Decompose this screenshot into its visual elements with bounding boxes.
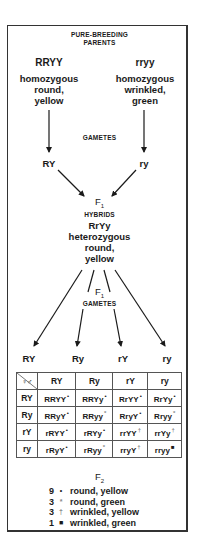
punnett-header-row: ♀♂ RY Ry rY ry	[17, 373, 182, 390]
legend-symbol-square-icon: ■	[54, 518, 68, 529]
punnett-cell: RRyy*	[76, 407, 113, 424]
punnett-cell: rrYy†	[148, 424, 182, 441]
arrow-f1-to-gamete2	[77, 309, 83, 346]
cell-marker: •	[173, 393, 175, 399]
arrow-f1-to-gamete1	[34, 270, 82, 346]
cell-marker: •	[103, 427, 105, 433]
legend-text: wrinkled, yellow	[70, 507, 139, 518]
col-header: Ry	[76, 373, 113, 390]
legend-count: 9	[44, 486, 54, 497]
col-header: ry	[148, 373, 182, 390]
arrow-f1-to-gamete3	[114, 309, 121, 346]
legend-count: 1	[44, 518, 54, 529]
col-header: rY	[113, 373, 148, 390]
cell-genotype: rrYy	[155, 428, 171, 437]
cell-marker: *	[103, 444, 105, 450]
arrow-gamete2-to-f1	[112, 170, 136, 196]
legend-row: 1 ■ wrinkled, green	[44, 518, 139, 529]
legend-count: 3	[44, 497, 54, 508]
cell-genotype: RrYY	[119, 394, 139, 403]
punnett-cell: rRyY•	[38, 441, 76, 458]
punnett-cell: Rryy*	[148, 407, 182, 424]
f2-legend: 9 • round, yellow 3 * round, green 3 † w…	[44, 486, 139, 528]
legend-text: round, green	[70, 497, 125, 508]
row-header: rY	[17, 424, 38, 441]
cell-marker: *	[104, 410, 106, 416]
cell-marker: †	[137, 444, 140, 450]
female-male-symbols: ♀♂	[22, 378, 33, 385]
row-header: RY	[17, 390, 38, 407]
cell-genotype: RryY	[120, 411, 139, 420]
legend-text: wrinkled, green	[70, 518, 136, 529]
row-header: ry	[17, 441, 38, 458]
cell-marker: •	[140, 393, 142, 399]
cell-genotype: RRYy	[82, 394, 103, 403]
cell-genotype: rryY	[120, 445, 136, 454]
punnett-cell: rRYy•	[76, 424, 113, 441]
cell-genotype: rryy	[155, 445, 170, 454]
punnett-cell: rRyy*	[76, 441, 113, 458]
punnett-cell: RryY•	[113, 407, 148, 424]
row-header: Ry	[17, 407, 38, 424]
legend-row: 3 * round, green	[44, 497, 139, 508]
cell-marker: •	[66, 427, 68, 433]
cell-marker: †	[138, 427, 141, 433]
punnett-row: RY RRYY• RRYy• RrYY• RrYy•	[17, 390, 182, 407]
cell-marker: •	[67, 393, 69, 399]
legend-count: 3	[44, 507, 54, 518]
legend-row: 3 † wrinkled, yellow	[44, 507, 139, 518]
cell-marker: •	[67, 410, 69, 416]
legend-text: round, yellow	[70, 486, 128, 497]
cell-genotype: RRyy	[83, 411, 103, 420]
punnett-cell: rRYY•	[38, 424, 76, 441]
cell-genotype: rrYY	[120, 428, 137, 437]
cell-marker: •	[65, 444, 67, 450]
punnett-square: ♀♂ RY Ry rY ry RY RRYY• RRYy• RrYY• RrYy…	[16, 372, 182, 458]
cell-genotype: RrYy	[154, 394, 173, 403]
punnett-cell: RRYy•	[76, 390, 113, 407]
arrow-f1-to-gamete3-upper	[104, 270, 110, 292]
f2-label-sub: 2	[101, 478, 104, 484]
punnett-cell: RRyY•	[38, 407, 76, 424]
cell-marker: †	[172, 427, 175, 433]
f2-label: F2	[0, 471, 199, 484]
legend-symbol-dot-icon: •	[54, 486, 68, 497]
cell-genotype: rRyy	[84, 445, 102, 454]
punnett-corner: ♀♂	[17, 373, 38, 390]
cell-marker: *	[173, 410, 175, 416]
cell-genotype: RRYY	[44, 394, 66, 403]
arrow-f1-to-gamete4	[115, 270, 165, 346]
cell-genotype: rRYY	[46, 428, 65, 437]
cell-genotype: Rryy	[154, 411, 172, 420]
cell-genotype: RRyY	[44, 411, 65, 420]
punnett-cell: RrYy•	[148, 390, 182, 407]
punnett-row: ry rRyY• rRyy* rryY† rryy■	[17, 441, 182, 458]
cell-marker: •	[139, 410, 141, 416]
cell-genotype: rRYy	[84, 428, 102, 437]
cell-marker: ■	[171, 444, 175, 450]
legend-symbol-asterisk-icon: *	[54, 497, 68, 508]
cell-marker: •	[104, 393, 106, 399]
punnett-row: rY rRYY• rRYy• rrYY† rrYy†	[17, 424, 182, 441]
legend-symbol-dagger-icon: †	[54, 507, 68, 518]
punnett-cell: rrYY†	[113, 424, 148, 441]
arrow-gamete1-to-f1	[58, 170, 84, 196]
punnett-row: Ry RRyY• RRyy* RryY• Rryy*	[17, 407, 182, 424]
punnett-cell: rryy■	[148, 441, 182, 458]
col-header: RY	[38, 373, 76, 390]
legend-row: 9 • round, yellow	[44, 486, 139, 497]
punnett-cell: RRYY•	[38, 390, 76, 407]
cell-genotype: rRyY	[46, 445, 65, 454]
punnett-cell: RrYY•	[113, 390, 148, 407]
punnett-cell: rryY†	[113, 441, 148, 458]
arrow-f1-to-gamete2-upper	[88, 270, 94, 292]
